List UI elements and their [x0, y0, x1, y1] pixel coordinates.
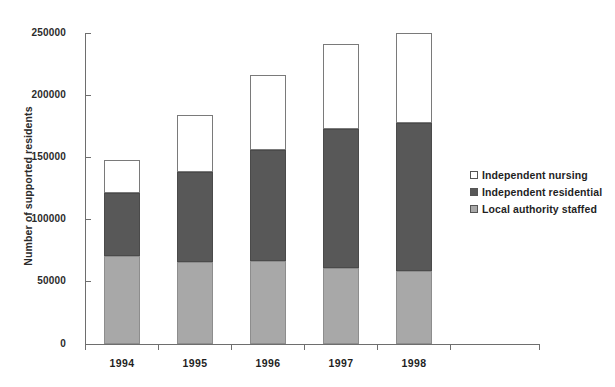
bar-segment-independent-residential [104, 193, 140, 256]
legend-label: Independent nursing [482, 169, 588, 181]
x-axis-tick-label-1995: 1995 [165, 357, 225, 369]
y-axis-tick [85, 281, 91, 282]
bar-segment-local-authority-staffed [104, 256, 140, 344]
bar-segment-local-authority-staffed [177, 262, 213, 344]
y-axis-tick [85, 95, 91, 96]
bar-segment-independent-residential [323, 129, 359, 268]
stacked-bar-chart: Number of supported residents 250000 200… [0, 0, 615, 387]
bar-segment-local-authority-staffed [323, 268, 359, 344]
chart-legend: Independent nursing Independent resident… [470, 167, 602, 218]
legend-swatch-icon [470, 205, 478, 213]
legend-item-independent-nursing[interactable]: Independent nursing [470, 167, 602, 182]
x-axis-tick-label-1994: 1994 [92, 357, 152, 369]
x-axis-tick [158, 344, 159, 350]
bar-segment-independent-nursing [104, 160, 140, 193]
bar-segment-independent-nursing [396, 33, 432, 123]
y-axis-tick-label: 0 [0, 338, 66, 349]
y-axis-tick-label: 100000 [0, 213, 66, 224]
bar-segment-independent-nursing [250, 75, 286, 150]
y-axis-tick [85, 157, 91, 158]
bar-segment-local-authority-staffed [250, 261, 286, 344]
bar-segment-independent-nursing [323, 44, 359, 129]
bar-segment-independent-residential [250, 150, 286, 261]
y-axis-tick-label: 50000 [0, 275, 66, 286]
legend-swatch-icon [470, 188, 478, 196]
x-axis-tick-label-1997: 1997 [311, 357, 371, 369]
x-axis-tick-label-1996: 1996 [238, 357, 298, 369]
x-axis-line [85, 344, 540, 345]
y-axis-tick-label: 150000 [0, 151, 66, 162]
bar-segment-local-authority-staffed [396, 271, 432, 344]
x-axis-tick [450, 344, 451, 350]
bar-segment-independent-residential [396, 123, 432, 271]
x-axis-tick [85, 344, 86, 350]
bar-segment-independent-residential [177, 172, 213, 262]
x-axis-tick-label-1998: 1998 [384, 357, 444, 369]
x-axis-tick [377, 344, 378, 350]
legend-swatch-icon [470, 171, 478, 179]
legend-label: Local authority staffed [482, 203, 597, 215]
y-axis-tick-label: 250000 [0, 27, 66, 38]
y-axis-tick [85, 33, 91, 34]
legend-item-local-authority-staffed[interactable]: Local authority staffed [470, 201, 602, 216]
legend-label: Independent residential [482, 186, 602, 198]
y-axis-title: Number of supported residents [22, 86, 34, 286]
x-axis-tick [539, 344, 540, 350]
y-axis-tick-label: 200000 [0, 89, 66, 100]
bar-segment-independent-nursing [177, 115, 213, 172]
x-axis-tick [304, 344, 305, 350]
legend-item-independent-residential[interactable]: Independent residential [470, 184, 602, 199]
y-axis-line [85, 33, 86, 344]
y-axis-tick [85, 219, 91, 220]
x-axis-tick [231, 344, 232, 350]
